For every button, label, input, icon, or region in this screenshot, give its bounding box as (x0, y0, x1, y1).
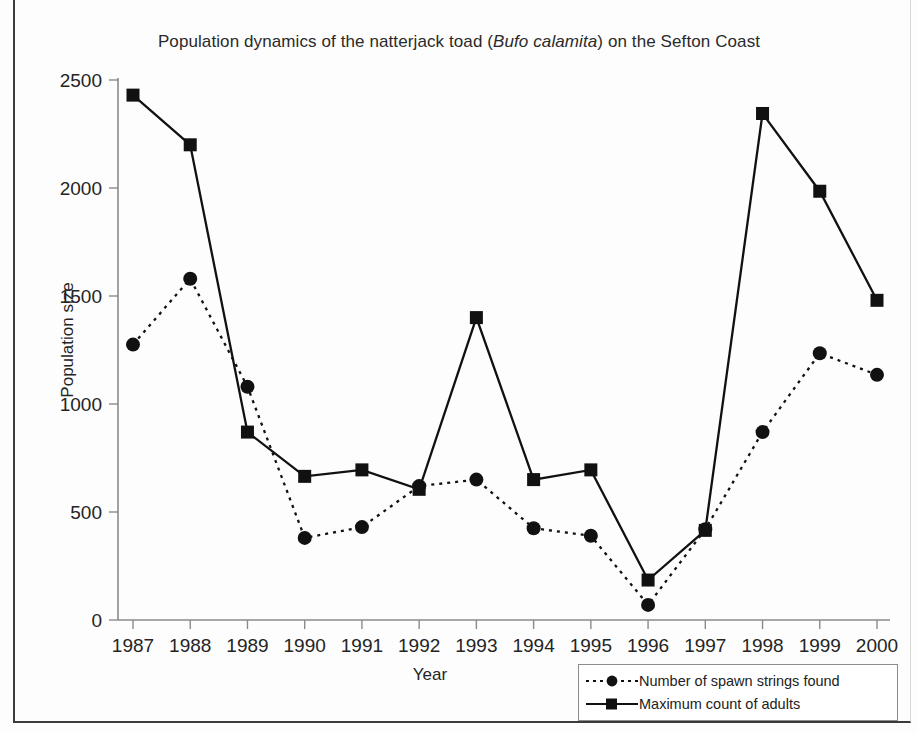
chart-page: Population dynamics of the natterjack to… (0, 0, 918, 733)
data-point-marker (126, 338, 140, 352)
data-point-marker (413, 483, 426, 496)
data-point-marker (813, 346, 827, 360)
data-point-marker (527, 473, 540, 486)
x-tick-label: 1998 (741, 635, 783, 656)
x-tick-label: 1990 (284, 635, 326, 656)
data-point-marker (756, 107, 769, 120)
data-point-marker (355, 520, 369, 534)
chart-legend: Number of spawn strings found Maximum co… (578, 664, 898, 721)
x-tick-label: 1989 (226, 635, 268, 656)
data-point-marker (241, 426, 254, 439)
data-point-marker (641, 598, 655, 612)
data-point-marker (871, 294, 884, 307)
data-point-marker (298, 470, 311, 483)
data-point-marker (870, 368, 884, 382)
x-tick-label: 1994 (512, 635, 555, 656)
data-point-marker (469, 473, 483, 487)
data-point-marker (470, 311, 483, 324)
data-point-marker (355, 463, 368, 476)
x-tick-label: 2000 (856, 635, 898, 656)
data-point-marker (813, 185, 826, 198)
legend-dotted-circle-icon (585, 673, 639, 689)
x-axis-title: Year (350, 665, 510, 685)
series-line (133, 279, 877, 605)
y-axis-title: Population size (58, 250, 78, 430)
x-axis-ticks: 1987198819891990199119921993199419951996… (112, 620, 898, 656)
legend-label-adults: Maximum count of adults (639, 696, 800, 712)
series-line (133, 95, 877, 580)
legend-item-spawn-strings[interactable]: Number of spawn strings found (585, 669, 891, 692)
series-2 (127, 89, 884, 587)
x-tick-label: 1993 (455, 635, 497, 656)
data-point-marker (756, 425, 770, 439)
axis-lines (118, 78, 890, 620)
x-tick-label: 1991 (341, 635, 383, 656)
data-point-marker (527, 521, 541, 535)
data-point-marker (183, 272, 197, 286)
chart-plot-area: 0500100015002000250019871988198919901991… (0, 0, 918, 733)
series-1 (126, 272, 884, 612)
data-point-marker (298, 531, 312, 545)
x-tick-label: 1999 (799, 635, 841, 656)
legend-label-spawn-strings: Number of spawn strings found (639, 673, 840, 689)
data-point-marker (642, 574, 655, 587)
data-point-marker (240, 380, 254, 394)
x-tick-label: 1995 (570, 635, 612, 656)
y-tick-label: 0 (91, 610, 102, 631)
x-tick-label: 1996 (627, 635, 669, 656)
x-tick-label: 1997 (684, 635, 726, 656)
data-point-marker (584, 529, 598, 543)
x-tick-label: 1988 (169, 635, 211, 656)
data-point-marker (184, 138, 197, 151)
data-point-marker (699, 524, 712, 537)
x-tick-label: 1987 (112, 635, 154, 656)
y-tick-label: 500 (70, 502, 102, 523)
y-tick-label: 2000 (60, 178, 102, 199)
y-tick-label: 2500 (60, 70, 102, 91)
x-tick-label: 1992 (398, 635, 440, 656)
legend-solid-square-icon (585, 696, 639, 712)
legend-item-adults[interactable]: Maximum count of adults (585, 692, 891, 715)
data-point-marker (584, 463, 597, 476)
data-point-marker (127, 89, 140, 102)
